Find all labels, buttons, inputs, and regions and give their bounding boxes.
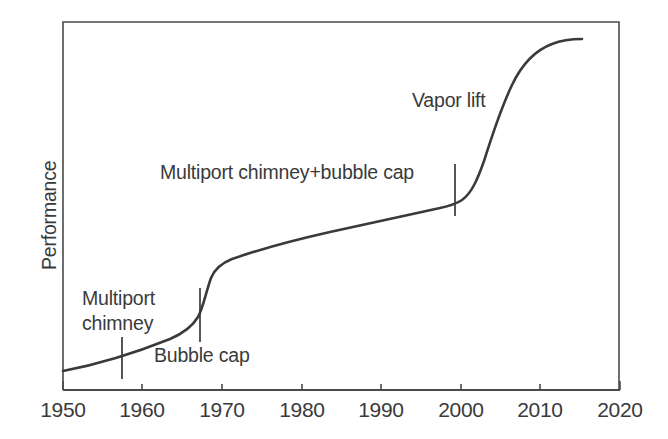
chart-figure: Performance 1950 1960 1970 1980 1990 200… — [0, 0, 668, 439]
x-tick-label-1960: 1960 — [119, 398, 165, 422]
x-axis-ticks — [63, 381, 620, 390]
x-tick-label-2020: 2020 — [597, 398, 643, 422]
annotation-multiport-chimney-line1: Multiport — [82, 286, 155, 311]
x-tick-label-1970: 1970 — [199, 398, 245, 422]
x-tick-label-1990: 1990 — [358, 398, 404, 422]
annotation-multiport-chimney-bubble-cap: Multiport chimney+bubble cap — [160, 160, 414, 185]
x-tick-label-2000: 2000 — [438, 398, 484, 422]
annotation-vapor-lift: Vapor lift — [412, 88, 486, 113]
x-tick-label-2010: 2010 — [517, 398, 563, 422]
chart-canvas — [0, 0, 668, 439]
annotation-bubble-cap: Bubble cap — [154, 343, 250, 368]
annotation-multiport-chimney-line2: chimney — [82, 311, 153, 336]
y-axis-label: Performance — [38, 161, 61, 270]
x-tick-label-1980: 1980 — [279, 398, 325, 422]
x-tick-label-1950: 1950 — [40, 398, 86, 422]
